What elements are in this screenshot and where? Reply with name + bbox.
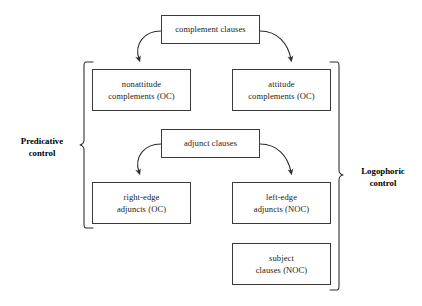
label-logophoric-control: Logophoric control — [349, 166, 417, 190]
arrow-adjunct-to-right-edge — [138, 144, 161, 172]
node-subject-clauses-line2: clauses (NOC) — [256, 264, 308, 276]
node-subject-clauses-line1: subject — [269, 252, 294, 264]
node-subject-clauses[interactable]: subject clauses (NOC) — [232, 243, 331, 285]
node-right-edge-adjuncts-line2: adjuncts (OC) — [117, 203, 166, 215]
node-nonattitude-complements-line2: complements (OC) — [108, 90, 175, 102]
label-predicative-control-line1: Predicative — [8, 136, 76, 148]
node-right-edge-adjuncts[interactable]: right-edge adjuncts (OC) — [92, 182, 191, 224]
node-complement-clauses[interactable]: complement clauses — [161, 15, 260, 44]
node-left-edge-adjuncts[interactable]: left-edge adjuncts (NOC) — [232, 182, 331, 224]
node-right-edge-adjuncts-line1: right-edge — [124, 191, 160, 203]
node-attitude-complements[interactable]: attitude complements (OC) — [232, 69, 331, 111]
node-left-edge-adjuncts-line1: left-edge — [266, 191, 297, 203]
node-complement-clauses-line1: complement clauses — [175, 23, 246, 35]
node-attitude-complements-line1: attitude — [268, 78, 294, 90]
node-adjunct-clauses[interactable]: adjunct clauses — [161, 129, 260, 158]
label-predicative-control: Predicative control — [8, 136, 76, 160]
label-predicative-control-line2: control — [8, 148, 76, 160]
node-nonattitude-complements-line1: nonattitude — [122, 78, 161, 90]
label-logophoric-control-line1: Logophoric — [349, 166, 417, 178]
brace-logophoric-control — [330, 62, 343, 290]
diagram-canvas: complement clauses nonattitude complemen… — [0, 0, 422, 306]
arrow-complement-to-attitude — [260, 31, 291, 59]
node-attitude-complements-line2: complements (OC) — [248, 90, 315, 102]
node-left-edge-adjuncts-line2: adjuncts (NOC) — [254, 203, 309, 215]
label-logophoric-control-line2: control — [349, 178, 417, 190]
arrow-adjunct-to-left-edge — [260, 144, 291, 172]
node-adjunct-clauses-line1: adjunct clauses — [184, 137, 237, 149]
arrow-complement-to-nonattitude — [138, 31, 161, 59]
node-nonattitude-complements[interactable]: nonattitude complements (OC) — [92, 69, 191, 111]
